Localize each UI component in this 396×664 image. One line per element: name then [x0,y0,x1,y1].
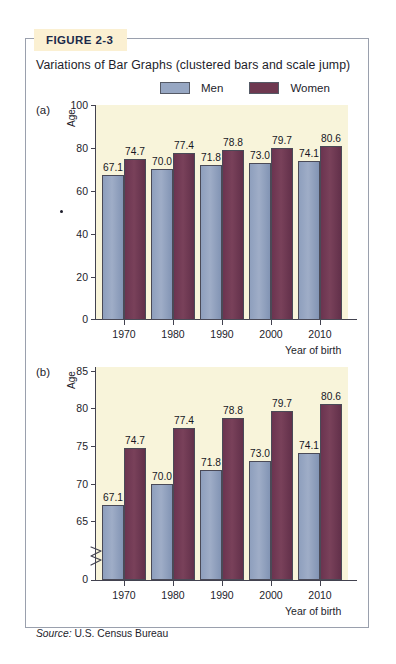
figure-number-badge: FIGURE 2-3 [34,29,127,51]
bar-label-b-women-2010: 80.6 [312,391,350,402]
x-tick-b-1980 [173,581,174,586]
bar-b-men-2000 [249,461,271,580]
y-tick-b-80 [91,408,96,409]
panel-letter-b: (b) [36,366,50,378]
bar-b-women-2000 [271,411,293,580]
x-tick-b-1990 [222,581,223,586]
x-tick-label-b-2010: 2010 [300,589,340,601]
y-tick-label-b-85: 85 [58,365,88,377]
y-tick-b-70 [91,484,96,485]
chart-panel-b: (b) Age 85 80 75 70 65 0 67.1 74.7 7 [0,0,396,664]
bar-b-women-1970 [124,448,146,580]
bar-b-women-1980 [173,428,195,580]
y-tick-b-65 [91,521,96,522]
bar-label-b-women-1970: 74.7 [116,435,154,446]
bar-label-b-women-2000: 79.7 [263,398,301,409]
x-tick-b-2000 [271,581,272,586]
x-tick-label-b-2000: 2000 [251,589,291,601]
y-tick-label-b-75: 75 [58,440,88,452]
bar-b-women-1990 [222,418,244,580]
y-tick-label-b-80: 80 [58,402,88,414]
source-text: U.S. Census Bureau [74,628,168,639]
bar-label-b-women-1980: 77.4 [165,415,203,426]
bar-label-b-women-1990: 78.8 [214,405,252,416]
x-axis-title-b: Year of birth [285,605,341,617]
x-tick-label-b-1980: 1980 [153,589,193,601]
x-tick-label-b-1990: 1990 [202,589,242,601]
y-tick-b-85 [91,371,96,372]
y-tick-b-75 [91,446,96,447]
bar-b-men-1980 [151,484,173,580]
x-axis-line-b [95,580,357,581]
bar-b-women-2010 [320,404,342,580]
x-tick-b-1970 [124,581,125,586]
bar-b-men-2010 [298,453,320,580]
source-label: Source: [36,628,72,639]
x-tick-b-2010 [320,581,321,586]
figure-page: FIGURE 2-3 Variations of Bar Graphs (clu… [0,0,396,664]
y-tick-label-b-0: 0 [58,573,88,585]
y-tick-label-b-65: 65 [58,515,88,527]
source-note: Source: U.S. Census Bureau [36,628,168,639]
bar-b-men-1970 [102,505,124,580]
y-tick-label-b-70: 70 [58,478,88,490]
y-tick-b-0 [91,580,96,581]
bar-b-men-1990 [200,470,222,580]
x-tick-label-b-1970: 1970 [104,589,144,601]
